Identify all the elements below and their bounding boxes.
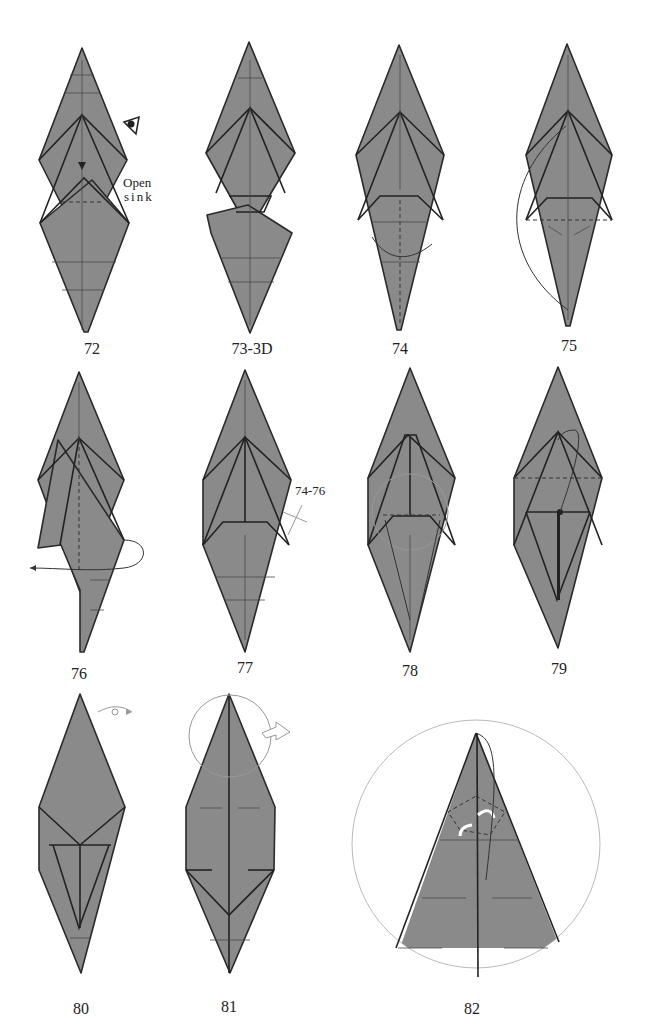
diagram-77	[203, 370, 307, 652]
diagram-canvas	[0, 0, 645, 1036]
diagram-79	[514, 367, 602, 648]
open-sink-label-line1: Open	[123, 176, 151, 190]
diagram-74	[356, 45, 444, 330]
open-sink-label-line2: sink	[124, 190, 154, 204]
diagram-75	[517, 44, 612, 326]
step-label-80: 80	[73, 1000, 89, 1018]
step-label-77: 77	[237, 659, 253, 677]
step-label-82: 82	[464, 1000, 480, 1018]
diagram-80	[39, 694, 132, 973]
diagram-81	[186, 694, 290, 973]
diagram-82	[352, 720, 600, 977]
push-arrow-icon	[262, 722, 290, 740]
step-label-81: 81	[221, 998, 237, 1016]
step-label-78: 78	[402, 662, 418, 680]
step-label-74: 74	[392, 340, 408, 358]
step-label-79: 79	[551, 660, 567, 678]
eye-icon	[124, 117, 139, 134]
diagram-76	[30, 372, 144, 652]
repeat-steps-label: 74-76	[295, 484, 325, 498]
turn-over-icon	[98, 707, 132, 715]
push-arrow-icon	[276, 542, 288, 560]
diagram-78	[368, 368, 455, 652]
step-label-73-3d: 73-3D	[232, 340, 273, 358]
step-label-76: 76	[71, 665, 87, 683]
step-label-72: 72	[84, 340, 100, 358]
step-label-75: 75	[561, 337, 577, 355]
diagram-73-3d	[206, 42, 295, 333]
